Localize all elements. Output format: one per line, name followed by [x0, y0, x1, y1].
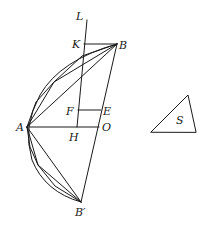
label-H: H — [68, 131, 79, 144]
label-B: B — [118, 39, 127, 52]
label-S: S — [176, 114, 184, 127]
label-O: O — [102, 121, 111, 134]
label-B-prime: B′ — [74, 206, 86, 219]
label-F: F — [65, 105, 74, 118]
label-E: E — [102, 105, 111, 118]
triangle-S — [151, 95, 196, 132]
label-L: L — [75, 10, 83, 23]
chord-BB2 — [81, 44, 117, 202]
parabola-diagram: L K B F E A H O B′ S — [0, 0, 211, 229]
label-K: K — [71, 38, 81, 51]
label-A: A — [15, 121, 24, 134]
